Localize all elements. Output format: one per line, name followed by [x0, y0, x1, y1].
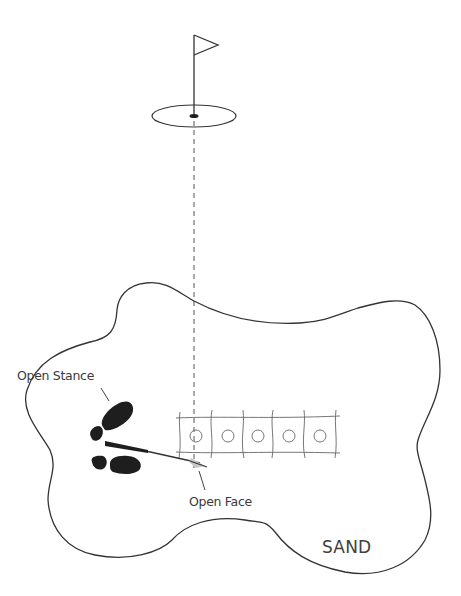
hole-icon: [190, 114, 199, 118]
flag-icon: [194, 35, 218, 116]
left-shoe-print: [90, 401, 133, 440]
ball-marker-1: [190, 430, 202, 442]
ball-marker-5: [314, 430, 326, 442]
sand-label: SAND: [322, 537, 371, 557]
open-stance-label: Open Stance: [17, 368, 94, 383]
open-stance-pointer: [101, 388, 109, 401]
ball-marker-2: [222, 430, 234, 442]
right-shoe-print: [92, 456, 141, 474]
ball-marker-4: [283, 430, 295, 442]
ball-marker-3: [252, 430, 264, 442]
strike-zone-grid: [176, 410, 340, 458]
open-face-pointer: [199, 471, 205, 490]
open-face-label: Open Face: [189, 494, 252, 509]
sand-bunker-outline: [26, 283, 440, 574]
